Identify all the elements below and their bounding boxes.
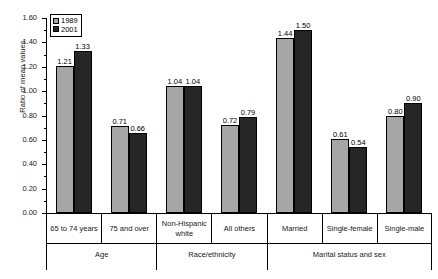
y-tick-label: 1.60 [22,14,37,22]
y-axis-line [46,18,47,214]
y-tick-label: 0.40 [22,161,37,169]
y-tick-minor [44,176,47,177]
bar-value-label: 0.72 [223,117,238,125]
bar-1989: 1.04 [166,86,184,213]
bar-value-label: 1.21 [57,58,72,66]
y-tick-label: 0.80 [22,112,37,120]
category-cell-1: 75 and over [101,214,156,244]
bar-2001: 1.33 [74,51,92,213]
bar-group: 0.800.90 [386,18,422,213]
bar-value-label: 0.79 [241,109,256,117]
legend-item-2001: 2001 [53,26,78,34]
category-cell-5: Single-female [322,214,377,244]
bar-2001: 0.54 [349,147,367,213]
y-axis-title: Ratio of mean values [18,7,27,147]
bar-group: 0.610.54 [331,18,367,213]
group-row: AgeRace/ethnicityMarital status and sex [46,244,432,270]
bar-1989: 0.61 [331,139,349,213]
chart-legend: 1989 2001 [50,14,82,37]
y-tick-major: 1.60 [42,18,46,19]
y-tick-label: 0.00 [22,209,37,217]
bar-2001: 0.79 [239,117,257,213]
legend-label-2001: 2001 [61,26,78,34]
y-tick-label: 1.20 [22,63,37,71]
bar-value-label: 0.61 [333,131,348,139]
y-tick-minor [44,30,47,31]
bar-value-label: 0.66 [130,125,145,133]
category-cell-2: Non-Hispanic white [156,214,211,244]
y-tick-major: 0.40 [42,164,46,165]
bar-value-label: 0.71 [112,118,127,126]
y-tick-minor [44,79,47,80]
legend-swatch-1989-icon [53,18,59,24]
bar-2001: 1.04 [184,86,202,213]
y-tick-minor [44,201,47,202]
y-tick-label: 0.60 [22,136,37,144]
y-tick-major: 1.20 [42,67,46,68]
y-tick-minor [44,103,47,104]
bar-1989: 0.71 [111,126,129,213]
y-tick-label: 0.20 [22,185,37,193]
bar-value-label: 1.04 [168,78,183,86]
bar-group: 0.710.66 [111,18,147,213]
bar-chart: Ratio of mean values 0.000.200.400.600.8… [0,0,438,279]
bar-group: 1.441.50 [276,18,312,213]
bar-value-label: 0.54 [351,139,366,147]
category-cell-4: Married [267,214,322,244]
bar-group: 1.041.04 [166,18,202,213]
bar-value-label: 0.80 [388,108,403,116]
legend-label-1989: 1989 [61,17,78,25]
y-tick-label: 1.00 [22,87,37,95]
bar-2001: 0.90 [404,103,422,213]
category-row: 65 to 74 years75 and overNon-Hispanic wh… [46,214,432,244]
legend-swatch-2001-icon [53,26,59,32]
plot-area: 0.000.200.400.600.801.001.201.401.60 1.2… [46,18,432,214]
bar-2001: 1.50 [294,30,312,213]
bar-value-label: 1.44 [278,30,293,38]
bar-1989: 0.72 [221,125,239,213]
y-tick-major: 1.40 [42,42,46,43]
group-cell-2: Marital status and sex [267,244,432,270]
y-tick-major: 0.80 [42,116,46,117]
y-tick-major: 0.60 [42,140,46,141]
group-cell-1: Race/ethnicity [156,244,266,270]
bar-value-label: 1.33 [75,43,90,51]
bar-1989: 0.80 [386,116,404,214]
y-tick-minor [44,128,47,129]
legend-item-1989: 1989 [53,17,78,25]
y-tick-label: 1.40 [22,39,37,47]
category-table: 65 to 74 years75 and overNon-Hispanic wh… [46,214,432,276]
y-tick-minor [44,55,47,56]
category-cell-6: Single-male [377,214,432,244]
y-tick-major: 0.20 [42,189,46,190]
bar-2001: 0.66 [129,133,147,213]
bar-value-label: 1.50 [296,22,311,30]
bar-value-label: 0.90 [406,95,421,103]
bar-group: 0.720.79 [221,18,257,213]
category-cell-0: 65 to 74 years [46,214,101,244]
bar-value-label: 1.04 [186,78,201,86]
group-cell-0: Age [46,244,156,270]
y-tick-major: 1.00 [42,91,46,92]
bar-1989: 1.44 [276,38,294,214]
y-tick-minor [44,152,47,153]
bar-1989: 1.21 [56,66,74,213]
bar-group: 1.211.33 [56,18,92,213]
category-cell-3: All others [211,214,266,244]
